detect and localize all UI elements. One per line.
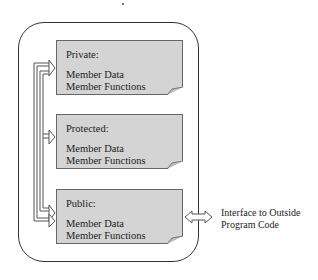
arrow-head-icon	[49, 130, 55, 144]
double-arrow-icon	[185, 211, 212, 223]
connector-arrows	[0, 0, 318, 280]
interface-label: Interface to Outside Program Code	[221, 207, 300, 231]
arrow-head-icon	[49, 60, 55, 76]
interface-label-line1: Interface to Outside	[221, 207, 300, 219]
interface-label-line2: Program Code	[221, 219, 300, 231]
